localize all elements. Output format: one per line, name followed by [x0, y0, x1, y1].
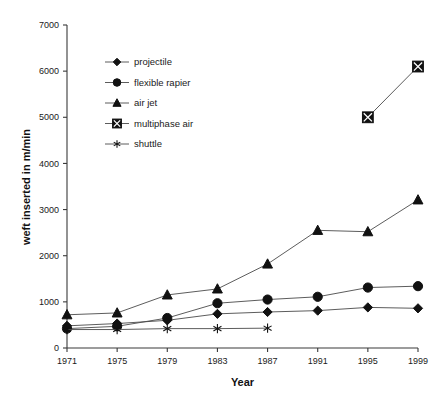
- y-tick-label: 7000: [39, 20, 59, 30]
- x-tick-label: 1999: [408, 356, 428, 366]
- data-point-marker: [413, 61, 424, 72]
- legend-label: shuttle: [134, 138, 162, 149]
- line-chart: 01000200030004000500060007000 1971197519…: [0, 0, 436, 407]
- y-axis-title: weft inserted in m/min: [20, 129, 32, 246]
- y-tick-label: 6000: [39, 66, 59, 76]
- chart-canvas: 01000200030004000500060007000 1971197519…: [0, 0, 436, 407]
- data-point-marker: [113, 79, 121, 87]
- data-point-marker: [362, 112, 373, 123]
- legend-label: multiphase air: [134, 118, 193, 129]
- data-point-marker: [113, 119, 122, 128]
- data-point-marker: [163, 313, 172, 322]
- x-axis-title: Year: [231, 376, 255, 388]
- y-tick-label: 1000: [39, 297, 59, 307]
- legend-label: flexible rapier: [134, 77, 191, 88]
- x-tick-label: 1975: [107, 356, 127, 366]
- y-tick-label: 0: [54, 343, 59, 353]
- y-tick-label: 2000: [39, 251, 59, 261]
- y-tick-label: 5000: [39, 112, 59, 122]
- x-tick-label: 1971: [57, 356, 77, 366]
- x-tick-label: 1979: [157, 356, 177, 366]
- legend-label: projectile: [134, 56, 172, 67]
- x-tick-label: 1983: [207, 356, 227, 366]
- legend-label: air jet: [134, 97, 158, 108]
- data-point-marker: [213, 299, 222, 308]
- y-tick-label: 3000: [39, 205, 59, 215]
- legend-item-flexible-rapier: flexible rapier: [105, 77, 191, 88]
- data-point-marker: [363, 283, 372, 292]
- data-point-marker: [263, 295, 272, 304]
- legend-item-multiphase-air: multiphase air: [105, 118, 193, 129]
- x-tick-label: 1995: [358, 356, 378, 366]
- x-tick-label: 1987: [258, 356, 278, 366]
- x-tick-label: 1991: [308, 356, 328, 366]
- y-tick-label: 4000: [39, 159, 59, 169]
- data-point-marker: [313, 292, 322, 301]
- chart-background: [0, 0, 436, 407]
- data-point-marker: [413, 282, 422, 291]
